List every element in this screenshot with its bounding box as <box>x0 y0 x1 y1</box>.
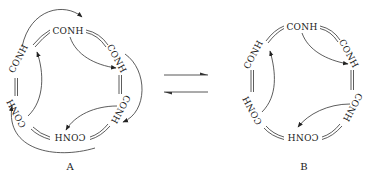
conh-group-a-upper-right: CONH <box>105 42 128 74</box>
conh-group-b-bottom: CONH <box>287 132 318 142</box>
equilibrium-arrows <box>164 73 208 95</box>
ring-b-arrows <box>262 33 350 127</box>
conh-group-b-upper-right: CONH <box>337 37 360 69</box>
conh-group-b-lower-right: CONH <box>341 91 364 123</box>
conh-group-a-bottom: CONH <box>54 132 85 142</box>
conh-group-a-top: CONH <box>52 26 83 36</box>
structure-a-label: A <box>65 161 74 172</box>
conh-group-a-lower-right: CONH <box>109 93 132 125</box>
conh-group-a-upper-left: CONH <box>7 42 30 74</box>
structure-a: CONH CONH CONH CONH CONH CONH A <box>5 9 142 172</box>
conh-group-b-lower-left: CONH <box>241 94 264 126</box>
reaction-diagram: CONH CONH CONH CONH CONH CONH A <box>0 0 367 182</box>
conh-group-b-top: CONH <box>286 22 317 32</box>
structure-b: CONH CONH CONH CONH CONH CONH B <box>241 22 365 172</box>
conh-group-a-lower-left: CONH <box>5 97 28 129</box>
conh-group-b-upper-left: CONH <box>242 38 265 70</box>
structure-b-label: B <box>300 161 307 172</box>
